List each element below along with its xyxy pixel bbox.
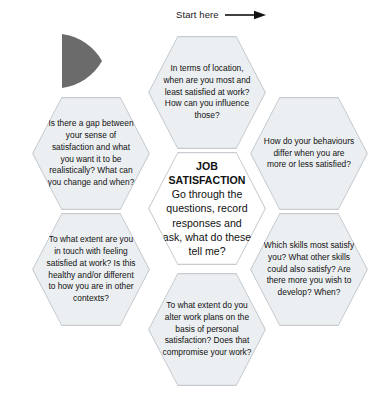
start-here-label: Start here — [176, 10, 219, 20]
hex-question-bottom-right[interactable]: Which skills most satisfy you? What othe… — [250, 213, 368, 326]
arrow-right-icon — [225, 10, 267, 20]
job-satisfaction-hex-diagram: Start here In terms of location, when ar… — [0, 0, 389, 397]
pie-wedge-icon — [60, 32, 104, 90]
hex-text-bottom: To what extent do you alter work plans o… — [148, 300, 266, 360]
hex-center-text: JOB SATISFACTION Go through the question… — [148, 159, 266, 258]
start-here-annotation: Start here — [176, 10, 267, 20]
hex-text-bottom-left: To what extent are you in touch with fee… — [32, 234, 150, 306]
hex-question-bottom[interactable]: To what extent do you alter work plans o… — [148, 273, 266, 386]
hex-center-job-satisfaction[interactable]: JOB SATISFACTION Go through the question… — [148, 152, 266, 265]
hex-text-right: How do your behaviours differ when you a… — [250, 136, 368, 172]
hex-question-left[interactable]: Is there a gap between your sense of sat… — [32, 97, 150, 210]
hex-text-top: In terms of location, when are you most … — [148, 63, 266, 123]
hex-question-top[interactable]: In terms of location, when are you most … — [148, 36, 266, 149]
hex-text-left: Is there a gap between your sense of sat… — [32, 118, 150, 190]
hex-text-bottom-right: Which skills most satisfy you? What othe… — [250, 240, 368, 300]
hex-center-body: Go through the questions, record respons… — [162, 187, 252, 258]
hex-question-right[interactable]: How do your behaviours differ when you a… — [250, 97, 368, 210]
hex-center-title: JOB SATISFACTION — [162, 159, 252, 187]
hex-question-bottom-left[interactable]: To what extent are you in touch with fee… — [32, 213, 150, 326]
